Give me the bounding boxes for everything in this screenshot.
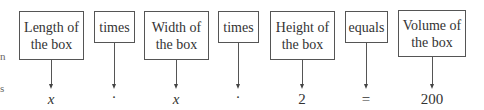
length-box: Length ofthe box — [19, 11, 84, 60]
arrow-line — [51, 60, 52, 85]
label-line: the box — [411, 35, 453, 50]
label-line: equals — [349, 19, 385, 36]
height-box: Height ofthe box — [270, 11, 335, 60]
times-symbol: · — [94, 89, 134, 106]
cropped-text-fragment: s — [0, 82, 4, 94]
equals-symbol: = — [346, 91, 386, 108]
volume-box: Volume ofthe box — [398, 10, 466, 57]
label-line: the box — [31, 37, 73, 52]
label-line: the box — [282, 37, 324, 52]
arrow-head-icon — [300, 84, 304, 89]
equals-box: equals — [345, 11, 388, 43]
volume-value: 200 — [412, 91, 452, 108]
arrow-line — [238, 43, 239, 85]
arrow-line — [176, 60, 177, 85]
arrow-line — [302, 60, 303, 85]
cropped-text-fragment: n — [0, 50, 6, 62]
arrow-head-icon — [174, 84, 178, 89]
label-line: Volume of — [403, 18, 461, 33]
length-symbol: x — [31, 91, 71, 108]
arrow-line — [114, 43, 115, 85]
width-symbol: x — [156, 91, 196, 108]
label-line: Width of — [152, 20, 202, 35]
label-line: times — [223, 19, 253, 36]
label-line: times — [99, 19, 129, 36]
height-value: 2 — [282, 91, 322, 108]
arrow-line — [432, 57, 433, 85]
arrow-head-icon — [364, 84, 368, 89]
arrow-head-icon — [49, 84, 53, 89]
label-line: Height of — [276, 20, 329, 35]
label-line: Length of — [24, 20, 79, 35]
label-line: the box — [156, 37, 198, 52]
width-box: Width ofthe box — [144, 11, 209, 60]
arrow-head-icon — [430, 84, 434, 89]
arrow-line — [366, 43, 367, 85]
times-box: times — [218, 11, 259, 43]
times-box: times — [94, 11, 135, 43]
times-symbol: · — [218, 89, 258, 106]
